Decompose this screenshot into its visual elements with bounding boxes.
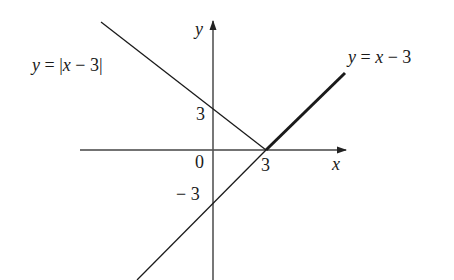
y-tick-3-label: 3 <box>196 104 205 124</box>
linear-equation-label: y = x − 3 <box>346 47 411 67</box>
linear-label-eq: = <box>356 47 375 67</box>
linear-label-y: y <box>346 47 356 67</box>
shared-right-branch-line <box>266 73 345 150</box>
linear-label-x: x <box>374 47 383 67</box>
abs-equation-label: y = |x − 3| <box>30 55 103 75</box>
y-axis-label: y <box>193 19 203 39</box>
abs-label-eq: = | <box>40 55 63 75</box>
abs-label-rest: − 3| <box>71 55 103 75</box>
linear-label-rest: − 3 <box>383 47 411 67</box>
x-axis-label: x <box>331 154 340 174</box>
graph-canvas: y x 0 3 3 − 3 y = |x − 3| y = x − 3 <box>0 0 454 280</box>
abs-label-y: y <box>30 55 40 75</box>
x-tick-3-label: 3 <box>261 155 270 175</box>
abs-label-x: x <box>62 55 71 75</box>
y-tick-neg3-label: − 3 <box>176 184 200 204</box>
abs-left-branch-line <box>101 22 266 150</box>
origin-label: 0 <box>195 152 204 172</box>
